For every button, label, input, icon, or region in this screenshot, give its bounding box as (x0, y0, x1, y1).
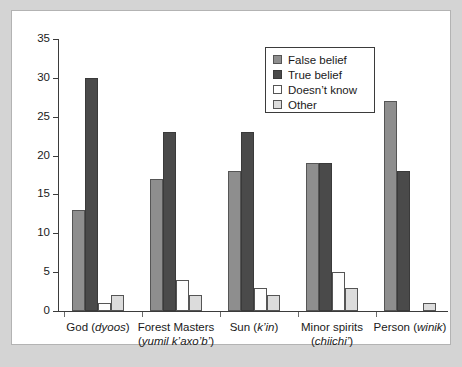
category-label-line2: (yumil k’axo’b’) (124, 334, 228, 348)
legend-swatch-icon (273, 100, 282, 109)
bar (332, 272, 345, 311)
legend-swatch-icon (273, 55, 282, 64)
legend-item: True belief (273, 67, 369, 82)
legend-item: False belief (273, 52, 369, 67)
bar (85, 78, 98, 311)
x-tick-mark (376, 312, 377, 317)
category-label-tail: ) (443, 321, 447, 333)
y-tick-label: 10 (24, 227, 50, 238)
bar (267, 295, 280, 311)
x-axis-category-label: Person (winik) (358, 320, 462, 334)
chart-panel: 05101520253035 God (dyoos)Forest Masters… (11, 10, 451, 345)
x-axis-line (58, 311, 448, 312)
y-tick-label: 15 (24, 188, 50, 199)
bar (384, 101, 397, 311)
bar (228, 171, 241, 311)
legend-swatch-icon (273, 70, 282, 79)
bar (397, 171, 410, 311)
chart-legend: False beliefTrue beliefDoesn’t knowOther (265, 47, 375, 113)
x-tick-mark (142, 312, 143, 317)
plot-area (58, 39, 447, 311)
category-label-tail: ) (210, 335, 214, 347)
y-tick-label-wrap: 25 (20, 111, 50, 122)
category-label-tail: ) (349, 335, 353, 347)
x-tick-mark (220, 312, 221, 317)
legend-item-label: Doesn’t know (288, 84, 357, 96)
bar (254, 288, 267, 311)
y-tick-label-wrap: 10 (20, 227, 50, 238)
y-tick-label-wrap: 0 (20, 305, 50, 316)
legend-item-label: Other (288, 99, 317, 111)
bar (306, 163, 319, 311)
bar (345, 288, 358, 311)
bar (72, 210, 85, 311)
category-label-text: God ( (66, 321, 95, 333)
y-tick-label-wrap: 5 (20, 266, 50, 277)
y-tick-label: 30 (24, 72, 50, 83)
bar (111, 295, 124, 311)
y-tick-label: 35 (24, 33, 50, 44)
y-tick-label-wrap: 35 (20, 33, 50, 44)
category-label-italic: k’in (257, 321, 274, 333)
bar (98, 303, 111, 311)
bar (176, 280, 189, 311)
category-label-text: Sun ( (230, 321, 258, 333)
y-tick-label-wrap: 20 (20, 150, 50, 161)
bar (241, 132, 254, 311)
legend-item-label: True belief (288, 69, 342, 81)
category-label-text: Minor spirits (301, 321, 363, 333)
y-tick-label: 0 (24, 305, 50, 316)
chart-figure: 05101520253035 God (dyoos)Forest Masters… (0, 0, 462, 367)
bar (423, 303, 436, 311)
bar (189, 295, 202, 311)
y-tick-label-wrap: 15 (20, 188, 50, 199)
bar (150, 179, 163, 311)
category-label-line2: (chiichi’) (280, 334, 384, 348)
category-label-line1: Person (winik) (358, 320, 462, 334)
x-tick-mark (298, 312, 299, 317)
legend-item: Doesn’t know (273, 82, 369, 97)
bar (163, 132, 176, 311)
legend-item-label: False belief (288, 54, 347, 66)
category-label-italic: yumil k’axo’b’ (142, 335, 210, 347)
category-label-tail: ) (274, 321, 278, 333)
category-label-text: Person ( (374, 321, 417, 333)
y-tick-label-wrap: 30 (20, 72, 50, 83)
category-label-italic: winik (417, 321, 443, 333)
category-label-italic: chiichi’ (315, 335, 350, 347)
legend-swatch-icon (273, 85, 282, 94)
y-tick-label: 25 (24, 111, 50, 122)
y-tick-label: 20 (24, 150, 50, 161)
legend-item: Other (273, 97, 369, 112)
bar (319, 163, 332, 311)
category-label-italic: dyoos (95, 321, 126, 333)
y-tick-label: 5 (24, 266, 50, 277)
x-tick-mark (64, 312, 65, 317)
y-tick-mark (53, 311, 58, 312)
